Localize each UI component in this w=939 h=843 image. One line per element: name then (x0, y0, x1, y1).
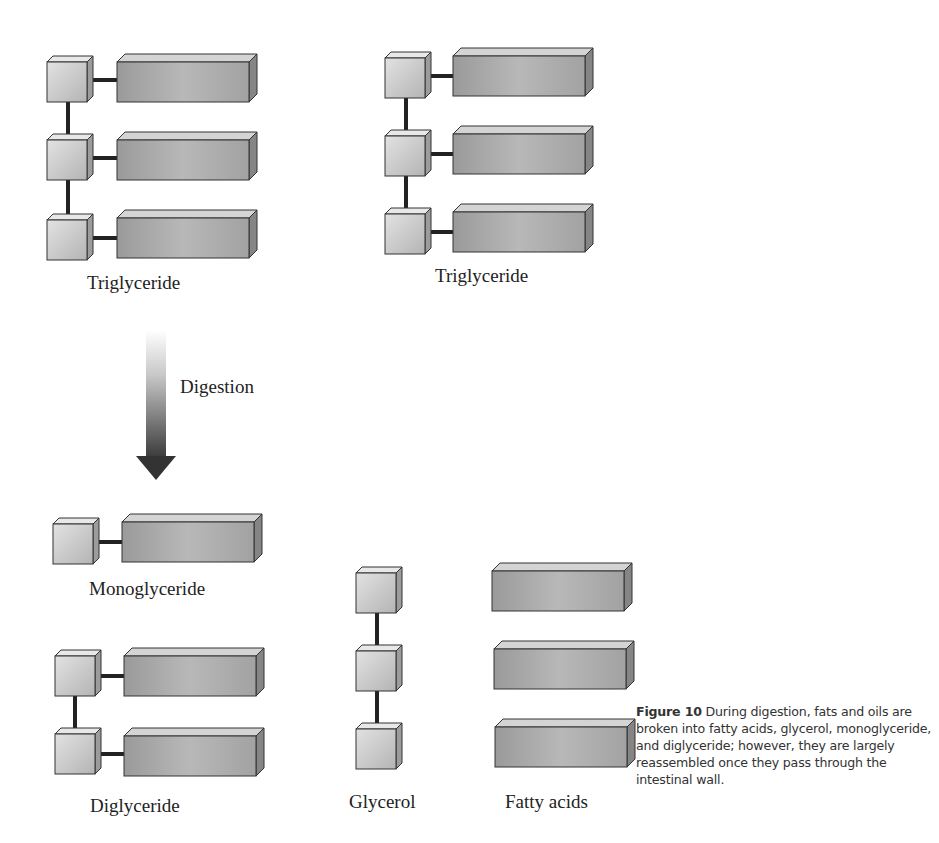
triglyceride-right-label: Triglyceride (435, 265, 528, 287)
diglyceride-label: Diglyceride (90, 795, 180, 817)
figure-caption: Figure 10 During digestion, fats and oil… (636, 703, 936, 788)
triglyceride-right (385, 48, 593, 254)
triglyceride-left-label: Triglyceride (87, 272, 180, 294)
glycerol-molecule (356, 567, 402, 769)
monoglyceride-molecule (53, 514, 262, 564)
diglyceride-molecule (55, 648, 264, 776)
digestion-arrow-icon (136, 330, 176, 480)
digestion-label: Digestion (180, 376, 254, 398)
glycerol-label: Glycerol (349, 791, 415, 813)
triglyceride-left (47, 54, 257, 260)
fatty-acids-group (492, 563, 635, 767)
figure-number: Figure 10 (636, 704, 702, 719)
fatty-acids-label: Fatty acids (505, 791, 588, 813)
monoglyceride-label: Monoglyceride (89, 578, 205, 600)
